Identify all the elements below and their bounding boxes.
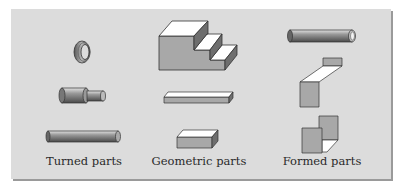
caption-geometric-parts: Geometric parts — [152, 154, 247, 168]
rod-part — [46, 131, 121, 142]
stepped-shaft-part — [59, 88, 106, 103]
tube-part — [288, 30, 356, 42]
z-bend-bracket-part — [300, 58, 342, 107]
flat-bar-part — [164, 92, 233, 103]
ring-part — [74, 41, 90, 63]
rectangular-block-part — [177, 130, 218, 148]
folded-sheet-part — [302, 116, 338, 153]
caption-formed-parts: Formed parts — [283, 154, 362, 168]
stepped-block-part — [159, 21, 237, 70]
caption-turned-parts: Turned parts — [46, 154, 122, 168]
